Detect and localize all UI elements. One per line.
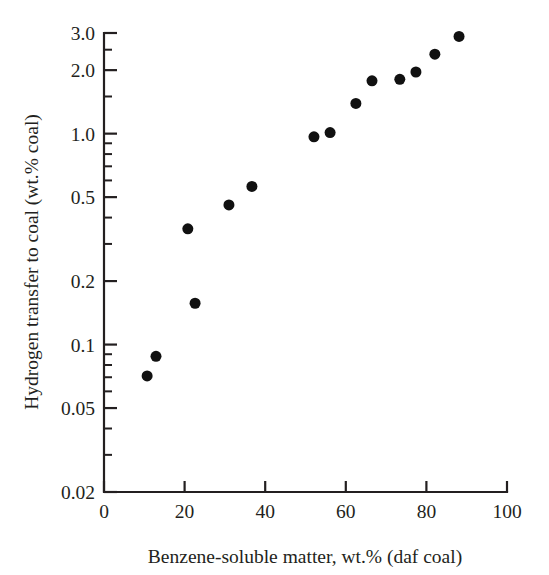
- plot-canvas: 0.020.050.10.20.51.02.03.0 020406080100 …: [0, 0, 549, 575]
- x-tick-label: 60: [336, 501, 356, 522]
- x-axis-tick-labels: 020406080100: [99, 501, 522, 522]
- data-point: [454, 31, 465, 42]
- axes-group: [104, 33, 507, 492]
- axis-lines: [104, 33, 507, 492]
- y-tick-label: 1.0: [71, 124, 95, 145]
- data-point: [429, 49, 440, 60]
- data-point: [150, 351, 161, 362]
- data-point: [190, 298, 201, 309]
- x-tick-label: 20: [175, 501, 195, 522]
- x-tick-label: 100: [492, 501, 521, 522]
- y-axis-tick-labels: 0.020.050.10.20.51.02.03.0: [61, 23, 95, 503]
- data-point: [182, 223, 193, 234]
- scatter-chart-figure: 0.020.050.10.20.51.02.03.0 020406080100 …: [0, 0, 549, 575]
- y-axis-title: Hydrogen transfer to coal (wt.% coal): [21, 114, 43, 410]
- data-point: [308, 131, 319, 142]
- y-axis-minor-ticks: [104, 50, 112, 455]
- x-axis-title: Benzene-soluble matter, wt.% (daf coal): [148, 546, 462, 568]
- y-tick-label: 0.5: [71, 187, 95, 208]
- y-tick-label: 3.0: [71, 23, 95, 44]
- data-point: [410, 66, 421, 77]
- data-point: [350, 98, 361, 109]
- data-point: [142, 370, 153, 381]
- y-axis-major-ticks: [104, 33, 117, 492]
- x-tick-label: 0: [99, 501, 109, 522]
- x-tick-label: 40: [255, 501, 275, 522]
- data-point: [394, 74, 405, 85]
- data-point-group: [142, 31, 465, 382]
- data-point: [246, 181, 257, 192]
- y-tick-label: 0.2: [71, 271, 95, 292]
- x-tick-label: 80: [417, 501, 437, 522]
- data-point: [325, 127, 336, 138]
- y-tick-label: 0.02: [61, 482, 95, 503]
- y-tick-label: 0.1: [71, 335, 95, 356]
- y-tick-label: 0.05: [61, 398, 95, 419]
- y-tick-label: 2.0: [71, 60, 95, 81]
- data-point: [367, 75, 378, 86]
- x-axis-major-ticks: [104, 481, 507, 492]
- data-point: [223, 199, 234, 210]
